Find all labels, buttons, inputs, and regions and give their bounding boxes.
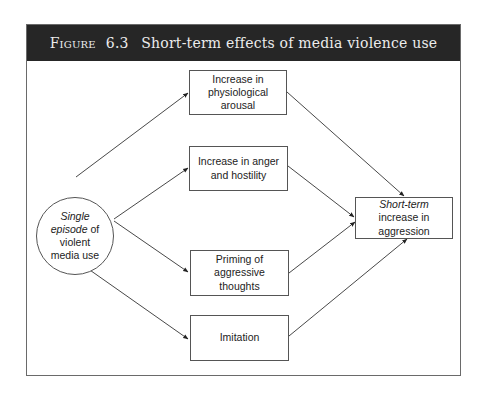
mediator-arousal: Increase in physiological arousal [189, 70, 287, 115]
outcome-node-aggression: Short-term increase in aggression [355, 197, 453, 239]
mediator-anger: Increase in anger and hostility [189, 146, 288, 191]
arrow-anger-to-outcome [288, 166, 354, 217]
arrow-source-to-anger [114, 168, 188, 219]
source-line1: Single [60, 210, 89, 222]
arrow-source-to-priming [114, 221, 188, 272]
source-line4: media use [51, 249, 99, 261]
mediator-anger-label: Increase in anger and hostility [194, 155, 283, 181]
source-line2-italic: episode [51, 223, 88, 235]
mediator-imitation: Imitation [190, 315, 289, 361]
source-line2-rest: of [88, 223, 100, 235]
mediator-arousal-label: Increase in physiological arousal [199, 73, 277, 112]
mediator-imitation-label: Imitation [220, 331, 260, 344]
mediator-priming-label: Priming of aggressive thoughts [208, 253, 272, 292]
mediator-priming: Priming of aggressive thoughts [190, 250, 289, 296]
arrow-source-to-arousal [76, 93, 188, 177]
outcome-italic: Short-term [379, 198, 429, 210]
arrow-source-to-imitation [77, 261, 188, 339]
arrow-imitation-to-outcome [289, 239, 407, 336]
source-node-single-episode: Single episode of violent media use [36, 197, 114, 275]
arrow-arousal-to-outcome [287, 92, 404, 196]
arrow-priming-to-outcome [289, 222, 355, 273]
outcome-rest: increase in aggression [378, 211, 429, 236]
source-line3: violent [60, 236, 90, 248]
